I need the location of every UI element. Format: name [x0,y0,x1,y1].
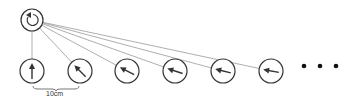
ellipsis-dot [302,64,307,69]
diagram-canvas [0,0,354,103]
source-circle [21,9,43,31]
ellipsis-dot [334,64,339,69]
ellipsis-dot [318,64,323,69]
connection-line [42,24,163,67]
scale-label: 10cm [46,90,63,97]
